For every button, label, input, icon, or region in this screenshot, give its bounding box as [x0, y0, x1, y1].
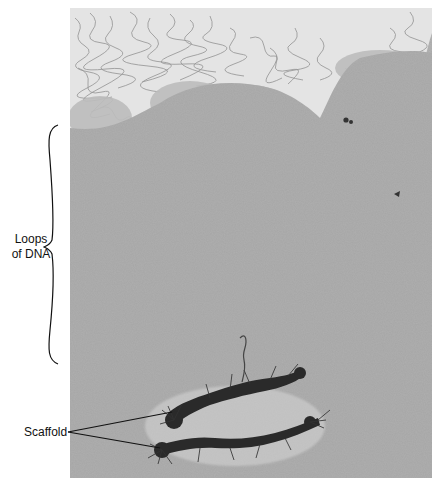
micrograph-texture [70, 8, 432, 478]
loops-label-line2: of DNA [8, 247, 54, 262]
scaffold-label: Scaffold [24, 425, 67, 440]
electron-micrograph [70, 8, 432, 478]
loops-label-line1: Loops [8, 232, 54, 247]
loops-of-dna-label: Loops of DNA [8, 232, 54, 262]
